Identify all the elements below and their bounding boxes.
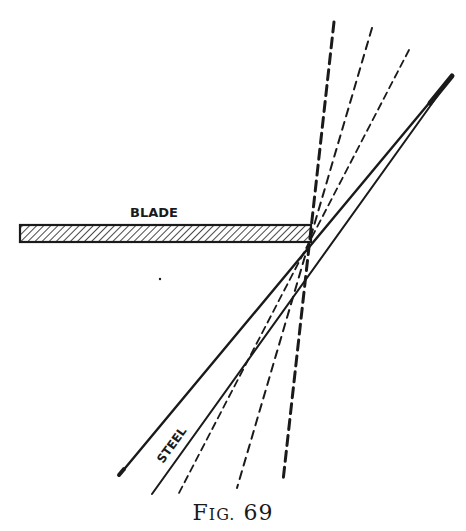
steel-label: STEEL [154, 424, 190, 466]
figure-caption: FIG. 69 [0, 500, 466, 525]
caption-smallcaps: IG. [209, 505, 236, 524]
steel [119, 76, 452, 494]
dashed-line [237, 28, 372, 488]
caption-prefix: F [193, 500, 209, 525]
ink-speck [159, 278, 161, 280]
alternate-position-lines [179, 22, 409, 493]
blade [20, 225, 311, 242]
blade-label: BLADE [130, 205, 178, 220]
dash-dot-line [179, 50, 409, 493]
figure-diagram: BLADE STEEL [0, 0, 466, 531]
caption-number: 69 [243, 500, 273, 525]
